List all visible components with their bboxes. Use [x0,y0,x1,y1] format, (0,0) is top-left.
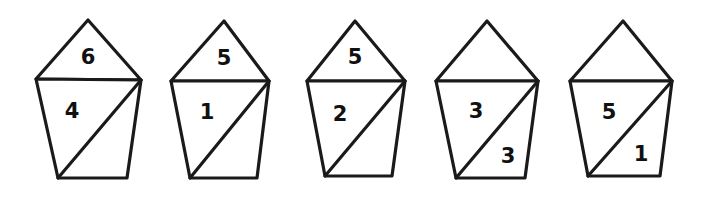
house-figure-1-upper-label: 4 [65,99,80,123]
house-figure-3-upper-label: 2 [333,102,348,126]
house-figure-5-lower-label: 1 [634,142,649,166]
house-figure-2-roof-label: 5 [217,46,232,70]
house-figure-3-body-trapezoid [307,81,405,176]
shapes-figure: 6451523351 [0,0,705,198]
house-figure-5-upper-label: 5 [602,100,617,124]
house-figure-3-roof-label: 5 [348,45,363,69]
house-figure-1-roof-label: 6 [81,45,96,69]
house-figure-5-body-trapezoid [570,81,672,176]
house-figure-2-upper-label: 1 [200,100,215,124]
house-figure-4-upper-label: 3 [469,99,484,123]
house-figure-4-lower-label: 3 [501,144,516,168]
house-figure-2-body-trapezoid [171,81,269,178]
